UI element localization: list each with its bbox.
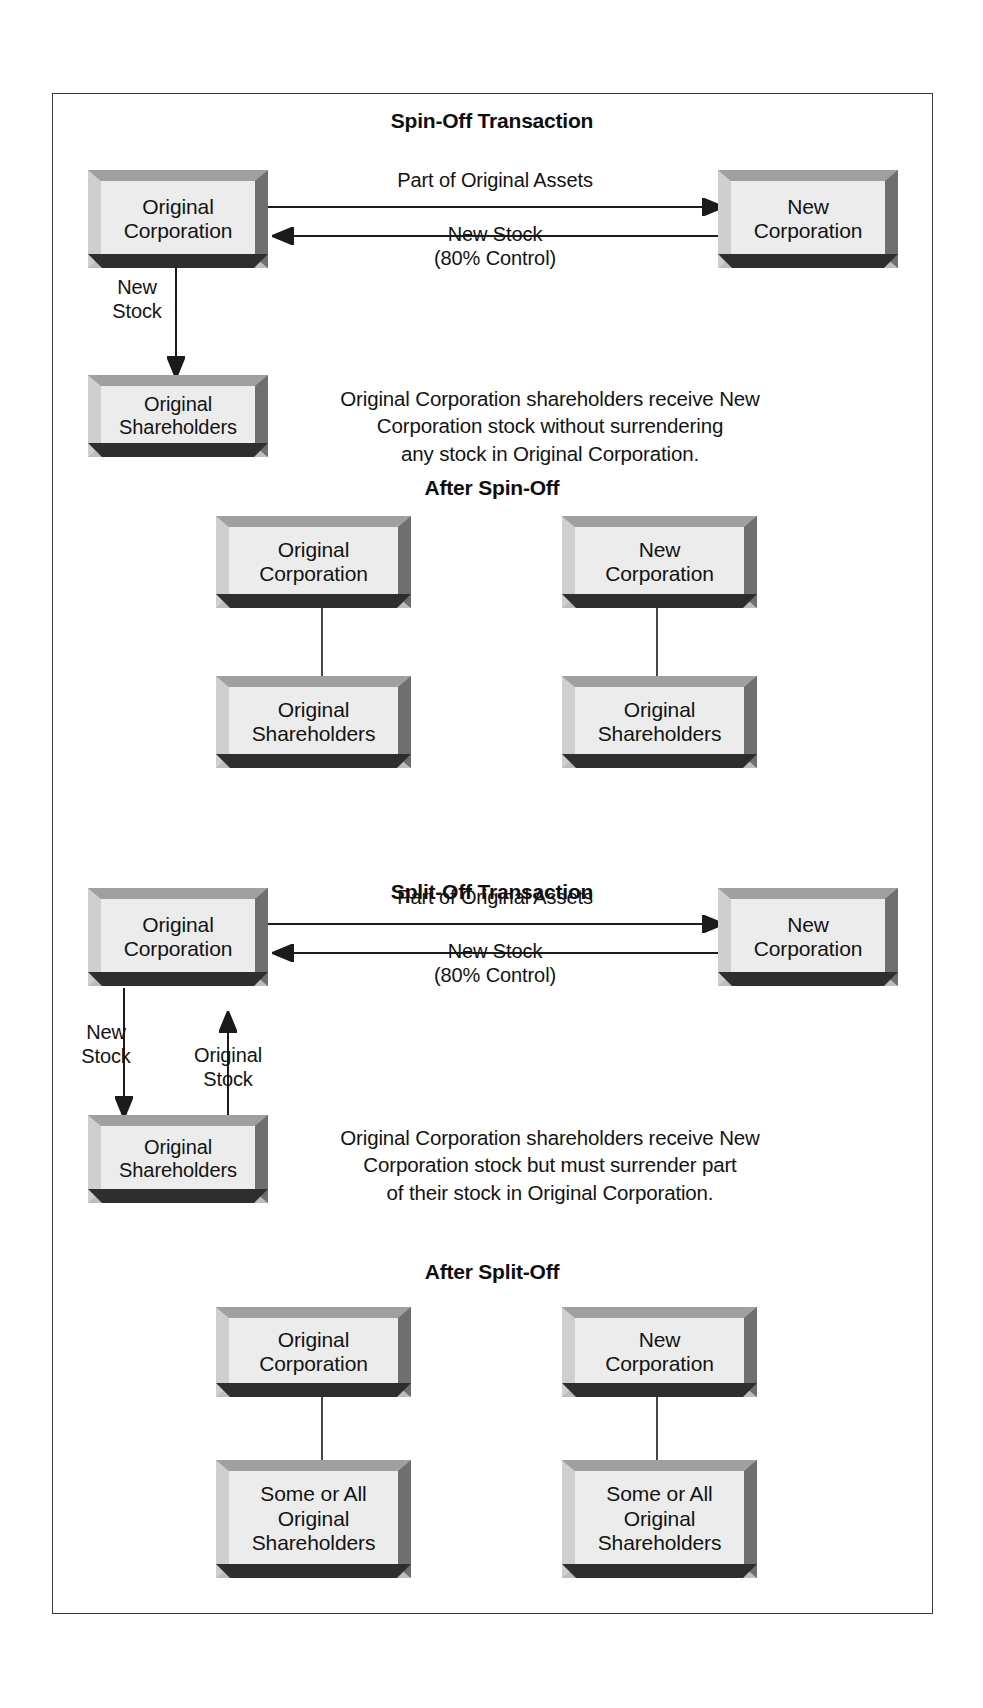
box-top-bevel xyxy=(562,1307,757,1318)
box-label: Original Corporation xyxy=(101,181,255,257)
edge-label-new-stock-control-splitoff: New Stock (80% Control) xyxy=(395,939,595,987)
box-label: Original Shareholders xyxy=(101,1126,255,1192)
heading-after-split-off: After Split-Off xyxy=(292,1260,692,1284)
box-right-bevel xyxy=(885,170,898,268)
edge-label-new-stock-down-spinoff: New Stock xyxy=(97,275,177,323)
box-after-splitoff-right-child: Some or All Original Shareholders xyxy=(562,1460,757,1578)
box-top-bevel xyxy=(216,1307,411,1318)
box-right-bevel xyxy=(398,1460,411,1578)
box-label: Original Corporation xyxy=(229,527,398,597)
edge-label-new-stock-control-spinoff: New Stock (80% Control) xyxy=(395,222,595,270)
box-top-bevel xyxy=(216,676,411,687)
box-top-bevel xyxy=(216,516,411,527)
box-after-spinoff-right-child: Original Shareholders xyxy=(562,676,757,768)
box-label: Original Corporation xyxy=(229,1318,398,1386)
box-label: Some or All Original Shareholders xyxy=(229,1471,398,1567)
box-new-corporation-spinoff: New Corporation xyxy=(718,170,898,268)
diagram-page: Spin-Off Transaction Original Corporatio… xyxy=(0,0,983,1708)
edge-label-original-stock-up-splitoff: Original Stock xyxy=(168,1043,288,1091)
box-top-bevel xyxy=(718,170,898,181)
edge-label-part-of-original-assets-splitoff: Part of Original Assets xyxy=(345,885,645,909)
box-label: Original Corporation xyxy=(101,899,255,975)
heading-spin-off-transaction: Spin-Off Transaction xyxy=(292,109,692,133)
edge-label-part-of-original-assets-spinoff: Part of Original Assets xyxy=(345,168,645,192)
box-after-spinoff-right-parent: New Corporation xyxy=(562,516,757,608)
box-label: Original Shareholders xyxy=(575,687,744,757)
box-label: New Corporation xyxy=(731,181,885,257)
box-label: Some or All Original Shareholders xyxy=(575,1471,744,1567)
box-right-bevel xyxy=(255,888,268,986)
box-top-bevel xyxy=(88,1115,268,1126)
box-label: New Corporation xyxy=(575,527,744,597)
box-after-spinoff-left-parent: Original Corporation xyxy=(216,516,411,608)
box-after-splitoff-left-child: Some or All Original Shareholders xyxy=(216,1460,411,1578)
box-label: New Corporation xyxy=(731,899,885,975)
box-top-bevel xyxy=(88,888,268,899)
box-after-spinoff-left-child: Original Shareholders xyxy=(216,676,411,768)
box-original-shareholders-splitoff: Original Shareholders xyxy=(88,1115,268,1203)
note-spin-off: Original Corporation shareholders receiv… xyxy=(300,385,800,467)
box-after-splitoff-left-parent: Original Corporation xyxy=(216,1307,411,1397)
box-right-bevel xyxy=(885,888,898,986)
box-top-bevel xyxy=(88,375,268,386)
box-after-splitoff-right-parent: New Corporation xyxy=(562,1307,757,1397)
diagram-frame xyxy=(52,93,933,1614)
edge-label-new-stock-down-splitoff: New Stock xyxy=(60,1020,152,1068)
box-label: Original Shareholders xyxy=(101,386,255,446)
box-top-bevel xyxy=(562,1460,757,1471)
note-split-off: Original Corporation shareholders receiv… xyxy=(300,1124,800,1206)
box-top-bevel xyxy=(88,170,268,181)
heading-after-spin-off: After Spin-Off xyxy=(292,476,692,500)
box-original-corporation-spinoff: Original Corporation xyxy=(88,170,268,268)
box-original-shareholders-spinoff: Original Shareholders xyxy=(88,375,268,457)
box-top-bevel xyxy=(562,516,757,527)
box-right-bevel xyxy=(255,170,268,268)
box-top-bevel xyxy=(718,888,898,899)
box-top-bevel xyxy=(216,1460,411,1471)
box-original-corporation-splitoff: Original Corporation xyxy=(88,888,268,986)
box-label: Original Shareholders xyxy=(229,687,398,757)
box-new-corporation-splitoff: New Corporation xyxy=(718,888,898,986)
box-right-bevel xyxy=(744,1460,757,1578)
box-label: New Corporation xyxy=(575,1318,744,1386)
box-top-bevel xyxy=(562,676,757,687)
